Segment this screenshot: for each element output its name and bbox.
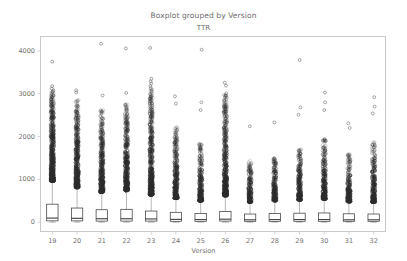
chart-subtitle: TTR (0, 24, 407, 32)
y-tick-label: 3000 (18, 90, 35, 98)
x-tick-label: 26 (221, 237, 229, 245)
y-tick-label: 4000 (18, 47, 35, 55)
x-tick-label: 22 (122, 237, 130, 245)
y-tick-label: 0 (31, 218, 35, 226)
y-tick-label: 1000 (18, 175, 35, 183)
x-tick-label: 28 (271, 237, 279, 245)
x-tick-label: 20 (73, 237, 81, 245)
x-tick-label: 25 (197, 237, 205, 245)
x-tick-label: 27 (246, 237, 254, 245)
x-tick-label: 24 (172, 237, 180, 245)
y-tick-label: 2000 (18, 133, 35, 141)
x-tick-label: 30 (320, 237, 328, 245)
chart-title: Boxplot grouped by Version (0, 11, 407, 20)
x-axis-title: Version (0, 247, 407, 255)
x-tick-label: 31 (345, 237, 353, 245)
plot-area (40, 36, 386, 232)
x-tick-label: 19 (48, 237, 56, 245)
boxplot-figure: Boxplot grouped by Version TTR 010002000… (0, 0, 407, 261)
x-tick-label: 21 (98, 237, 106, 245)
x-tick-label: 29 (295, 237, 303, 245)
x-tick-label: 23 (147, 237, 155, 245)
x-tick-label: 32 (370, 237, 378, 245)
